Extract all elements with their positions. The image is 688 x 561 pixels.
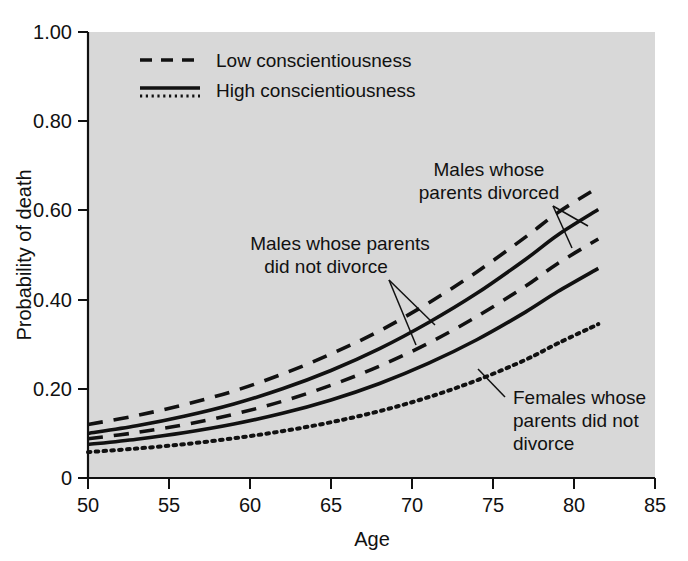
figure-container: 1.00 0.80 0.60 0.40 0.20 0 50 55 60 65 7…: [0, 0, 688, 561]
x-axis-title: Age: [354, 528, 390, 550]
annotation-males-divorced-line1: Males whose: [434, 159, 545, 180]
annotation-males-not-divorced-line2: did not divorce: [264, 256, 388, 277]
legend-label-high-conscientiousness: High conscientiousness: [216, 80, 416, 101]
probability-of-death-chart: 1.00 0.80 0.60 0.40 0.20 0 50 55 60 65 7…: [0, 0, 688, 561]
annotation-males-divorced-line2: parents divorced: [419, 182, 559, 203]
annotation-females-line2: parents did not: [513, 410, 639, 431]
y-tick-label-0-60: 0.60: [33, 199, 72, 221]
x-tick-label-65: 65: [320, 494, 342, 516]
y-tick-label-0-20: 0.20: [33, 378, 72, 400]
annotation-females-line1: Females whose: [513, 387, 646, 408]
x-axis-ticks: [88, 478, 655, 489]
y-tick-label-0: 0: [61, 467, 72, 489]
x-tick-label-50: 50: [77, 494, 99, 516]
annotation-males-not-divorced-line1: Males whose parents: [250, 233, 430, 254]
legend-label-low-conscientiousness: Low conscientiousness: [216, 50, 411, 71]
x-tick-label-80: 80: [563, 494, 585, 516]
x-tick-label-55: 55: [158, 494, 180, 516]
y-tick-label-1-00: 1.00: [33, 21, 72, 43]
y-tick-label-0-40: 0.40: [33, 289, 72, 311]
y-axis-title: Probability of death: [13, 169, 35, 340]
annotation-females-line3: divorce: [513, 433, 574, 454]
x-tick-label-75: 75: [482, 494, 504, 516]
x-tick-label-85: 85: [644, 494, 666, 516]
x-tick-label-70: 70: [401, 494, 423, 516]
y-axis-ticks: [78, 32, 88, 478]
y-tick-label-0-80: 0.80: [33, 110, 72, 132]
x-tick-label-60: 60: [239, 494, 261, 516]
